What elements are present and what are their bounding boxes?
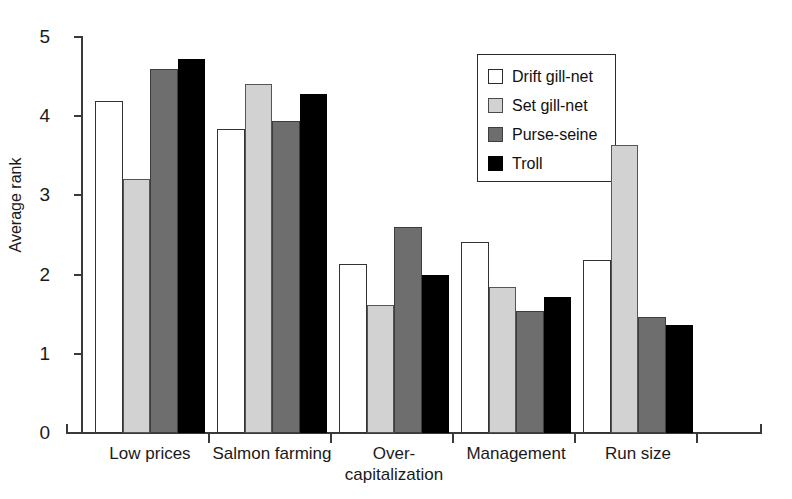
bar-troll-run-size bbox=[666, 325, 694, 433]
x-tick-4 bbox=[574, 433, 576, 443]
legend: Drift gill-netSet gill-netPurse-seineTro… bbox=[477, 54, 616, 182]
x-category-label-run-size: Run size bbox=[558, 443, 718, 464]
y-tick-2 bbox=[74, 274, 82, 276]
bar-purse-seine-low-prices bbox=[150, 69, 178, 433]
x-category-line1: Run size bbox=[558, 443, 718, 464]
bar-drift-gill-net-over-capitalization bbox=[339, 264, 367, 433]
y-tick-3 bbox=[74, 194, 82, 196]
y-tick-4 bbox=[74, 115, 82, 117]
legend-swatch-icon bbox=[488, 156, 503, 171]
bar-purse-seine-run-size bbox=[638, 317, 666, 433]
bar-set-gill-net-over-capitalization bbox=[367, 305, 395, 433]
bar-drift-gill-net-management bbox=[461, 242, 489, 433]
x-axis-left-cap bbox=[66, 424, 68, 433]
legend-swatch-icon bbox=[488, 98, 503, 113]
bar-drift-gill-net-low-prices bbox=[95, 101, 123, 433]
legend-label: Set gill-net bbox=[512, 98, 588, 114]
legend-swatch-icon bbox=[488, 69, 503, 84]
bar-drift-gill-net-salmon-farming bbox=[217, 129, 245, 433]
legend-label: Purse-seine bbox=[512, 127, 597, 143]
bar-purse-seine-over-capitalization bbox=[394, 227, 422, 433]
y-tick-1 bbox=[74, 353, 82, 355]
bar-purse-seine-management bbox=[516, 311, 544, 433]
legend-item-set-gill-net[interactable]: Set gill-net bbox=[488, 91, 615, 120]
legend-item-troll[interactable]: Troll bbox=[488, 149, 615, 178]
bar-purse-seine-salmon-farming bbox=[272, 121, 300, 433]
x-tick-3 bbox=[452, 433, 454, 443]
y-tick-5 bbox=[74, 36, 82, 38]
y-tick-label-5: 5 bbox=[10, 27, 50, 46]
bar-set-gill-net-management bbox=[489, 287, 517, 433]
y-tick-label-2: 2 bbox=[10, 265, 50, 284]
legend-item-purse-seine[interactable]: Purse-seine bbox=[488, 120, 615, 149]
x-axis-right-cap bbox=[760, 424, 762, 433]
bar-set-gill-net-run-size bbox=[611, 145, 639, 433]
bar-troll-management bbox=[544, 297, 572, 433]
bar-set-gill-net-salmon-farming bbox=[245, 84, 273, 433]
bar-drift-gill-net-run-size bbox=[583, 260, 611, 433]
x-category-line2: capitalization bbox=[314, 464, 474, 485]
legend-swatch-icon bbox=[488, 127, 503, 142]
legend-label: Drift gill-net bbox=[512, 69, 593, 85]
y-tick-label-1: 1 bbox=[10, 344, 50, 363]
legend-label: Troll bbox=[512, 156, 543, 172]
bar-troll-salmon-farming bbox=[300, 94, 328, 433]
plot-area bbox=[82, 37, 760, 433]
y-tick-label-3: 3 bbox=[10, 185, 50, 204]
bar-set-gill-net-low-prices bbox=[123, 179, 151, 433]
bar-troll-low-prices bbox=[178, 59, 206, 433]
y-tick-label-0: 0 bbox=[10, 423, 50, 442]
x-tick-1 bbox=[208, 433, 210, 443]
bar-chart: Average rank 012345 Low pricesSalmon far… bbox=[0, 0, 792, 499]
legend-item-drift-gill-net[interactable]: Drift gill-net bbox=[488, 62, 615, 91]
x-tick-5 bbox=[696, 433, 698, 443]
y-tick-label-4: 4 bbox=[10, 106, 50, 125]
bar-troll-over-capitalization bbox=[422, 275, 450, 433]
x-tick-2 bbox=[330, 433, 332, 443]
